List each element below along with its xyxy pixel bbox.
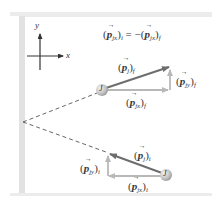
label-pjx-final: (pjx)f	[126, 97, 146, 110]
label-pjy-initial: (pjy)i	[80, 163, 100, 176]
ball-initial-label: J	[163, 169, 167, 178]
label-pjx-initial: (pjx)i	[128, 181, 148, 194]
label-pj-final: (pj)f	[118, 62, 135, 75]
ball-final-label: J	[99, 84, 103, 93]
x-axis-label: x	[66, 50, 70, 60]
top-band	[10, 12, 212, 17]
wall-outer	[0, 16, 22, 196]
label-pjy-final: (pjy)f	[176, 76, 196, 89]
trajectory-outgoing	[23, 93, 97, 122]
diagram-canvas: y x J J (pjx)i = −(pjx)f (pj)f (pjy)f (p…	[0, 0, 218, 212]
equation: (pjx)i = −(pjx)f	[103, 29, 161, 42]
y-axis-label: y	[35, 20, 39, 30]
wall	[19, 16, 25, 194]
arrow-pj-final	[106, 67, 169, 88]
bottom-band	[10, 193, 212, 196]
label-pj-initial: (pj)i	[134, 150, 151, 163]
trajectory-incoming	[23, 122, 106, 152]
